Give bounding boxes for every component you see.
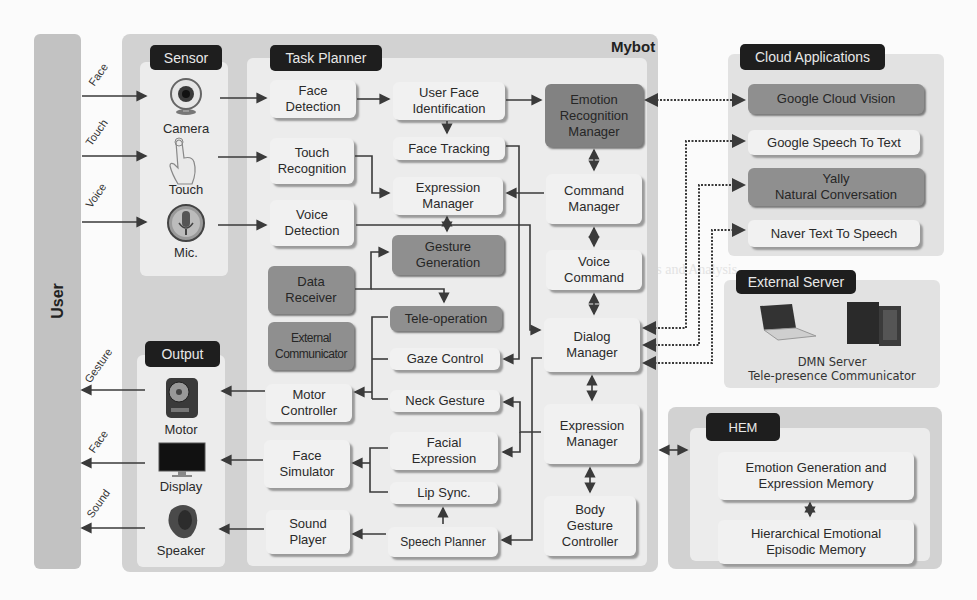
display-label: Display — [145, 479, 217, 494]
face-detection-box[interactable]: Face Detection — [270, 80, 356, 118]
voice-command-box[interactable]: Voice Command — [546, 250, 642, 290]
touch-recognition-box[interactable]: Touch Recognition — [270, 138, 354, 184]
lip-sync-box[interactable]: Lip Sync. — [390, 482, 498, 504]
command-manager-box[interactable]: Command Manager — [546, 174, 642, 224]
sensor-title: Sensor — [150, 45, 222, 70]
naver-text-to-speech-box[interactable]: Naver Text To Speech — [748, 220, 920, 247]
expression-manager-core-box[interactable]: Expression Manager — [544, 404, 640, 464]
laptop-icon — [756, 302, 820, 342]
neck-gesture-box[interactable]: Neck Gesture — [390, 390, 500, 412]
external-server-title: External Server — [736, 270, 856, 294]
camera-icon — [166, 76, 206, 116]
microphone-icon — [166, 203, 206, 243]
output-label-gesture: Gesture — [82, 346, 114, 385]
cloud-applications-title: Cloud Applications — [740, 44, 885, 70]
server-tower-icon — [845, 298, 907, 348]
google-cloud-vision-box[interactable]: Google Cloud Vision — [748, 84, 924, 114]
emotion-recognition-manager-box[interactable]: Emotion Recognition Manager — [545, 84, 643, 147]
hem-title: HEM — [706, 413, 780, 441]
mybot-title: Mybot — [611, 38, 655, 55]
data-receiver-box[interactable]: Data Receiver — [268, 266, 354, 314]
tele-operation-box[interactable]: Tele-operation — [390, 306, 502, 331]
hierarchical-emotional-memory-box[interactable]: Hierarchical Emotional Episodic Memory — [718, 520, 914, 564]
output-title: Output — [145, 341, 220, 367]
input-label-face: Face — [86, 61, 110, 88]
gaze-control-box[interactable]: Gaze Control — [390, 348, 500, 370]
facial-expression-box[interactable]: Facial Expression — [390, 432, 498, 470]
expression-manager-left-box[interactable]: Expression Manager — [393, 177, 503, 215]
speaker-label: Speaker — [145, 543, 217, 558]
camera-label: Camera — [150, 121, 222, 136]
output-label-sound: Sound — [84, 487, 112, 520]
output-label-face: Face — [86, 428, 110, 455]
motor-label: Motor — [145, 422, 217, 437]
input-label-touch: Touch — [83, 117, 110, 148]
mic-label: Mic. — [150, 245, 222, 260]
google-speech-to-text-box[interactable]: Google Speech To Text — [748, 130, 920, 155]
user-label: User — [49, 271, 67, 331]
external-communicator-box[interactable]: External Communicator — [268, 322, 354, 370]
face-tracking-box[interactable]: Face Tracking — [393, 137, 505, 160]
face-simulator-box[interactable]: Face Simulator — [264, 440, 350, 488]
external-server-caption: DMN Server Tele-presence Communicator — [724, 355, 940, 383]
dmn-server-label: DMN Server — [724, 355, 940, 369]
motor-icon — [163, 374, 201, 422]
yally-natural-conversation-box[interactable]: Yally Natural Conversation — [748, 168, 924, 206]
display-icon — [158, 442, 206, 478]
gesture-generation-box[interactable]: Gesture Generation — [392, 235, 504, 275]
speaker-icon — [163, 500, 203, 540]
speech-planner-box[interactable]: Speech Planner — [388, 527, 498, 557]
touch-icon — [166, 136, 206, 186]
task-planner-title: Task Planner — [270, 45, 382, 71]
sound-player-box[interactable]: Sound Player — [266, 510, 350, 554]
emotion-generation-memory-box[interactable]: Emotion Generation and Expression Memory — [718, 452, 914, 500]
user-face-identification-box[interactable]: User Face Identification — [393, 82, 505, 120]
body-gesture-controller-box[interactable]: Body Gesture Controller — [544, 496, 636, 556]
input-label-voice: Voice — [83, 181, 108, 210]
motor-controller-box[interactable]: Motor Controller — [266, 384, 352, 422]
tele-presence-label: Tele-presence Communicator — [724, 369, 940, 383]
dialog-manager-box[interactable]: Dialog Manager — [544, 318, 640, 372]
user-bar: User — [34, 34, 81, 569]
voice-detection-box[interactable]: Voice Detection — [270, 200, 354, 246]
touch-label: Touch — [150, 182, 222, 197]
